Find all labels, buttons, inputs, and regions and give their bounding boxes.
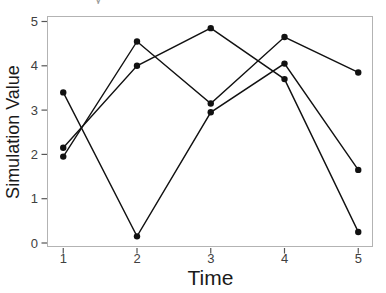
- series-3-point: [355, 229, 361, 235]
- y-axis-title: Simulation Value: [3, 0, 23, 282]
- x-tick-label: 4: [273, 251, 297, 266]
- series-2-point: [134, 38, 140, 44]
- series-2-point: [281, 34, 287, 40]
- series-3-point: [134, 63, 140, 69]
- x-tick-label: 5: [346, 251, 370, 266]
- series-1-point: [281, 60, 287, 66]
- series-3-point: [208, 25, 214, 31]
- series-1-point: [355, 167, 361, 173]
- series-2-point: [208, 100, 214, 106]
- series-1-line: [63, 64, 358, 237]
- x-tick-label: 2: [125, 251, 149, 266]
- x-tick-label: 3: [199, 251, 223, 266]
- plot-canvas: [0, 0, 386, 293]
- series-2-point: [60, 153, 66, 159]
- series-3-point: [60, 145, 66, 151]
- series-1-point: [134, 233, 140, 239]
- simulation-line-chart: y 01234512345 Simulation Value Time: [0, 0, 386, 293]
- series-1-point: [60, 89, 66, 95]
- x-axis-title: Time: [47, 266, 374, 290]
- series-3-point: [281, 76, 287, 82]
- series-3-line: [63, 28, 358, 232]
- series-2-point: [355, 69, 361, 75]
- series-1-point: [208, 109, 214, 115]
- x-tick-label: 1: [51, 251, 75, 266]
